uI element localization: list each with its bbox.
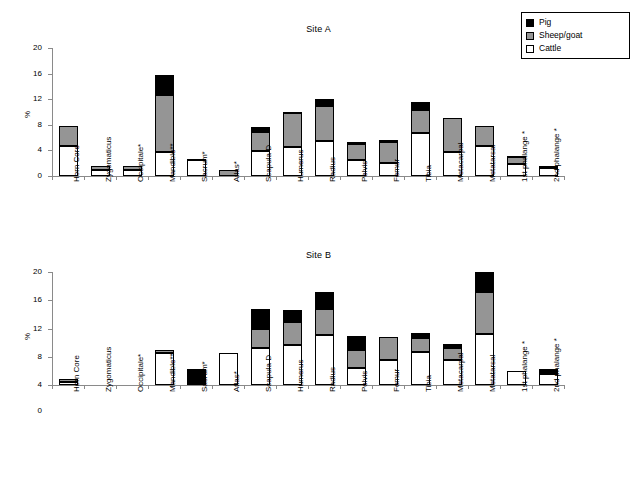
chart-panel-site-b: Site B 048121620 Horn CoreZygomaticusOcc…	[0, 240, 637, 479]
bar-pelvis	[347, 48, 366, 176]
bar-segment-sheep-goat	[251, 329, 270, 348]
x-axis-label: Scapula D	[264, 355, 273, 392]
bar-segment-pig	[475, 272, 494, 292]
bar-tibia	[411, 272, 430, 385]
x-axis-tick	[116, 385, 117, 389]
legend-swatch-cattle-icon	[526, 45, 534, 53]
x-axis-label: Sacrum*	[200, 361, 209, 392]
x-axis-tick	[468, 385, 469, 389]
x-axis-tick	[84, 385, 85, 389]
y-axis-tick-label: 20	[20, 268, 42, 276]
bar-segment-pig	[315, 292, 334, 309]
y-axis-tick	[48, 48, 52, 49]
x-axis-label: Femur	[392, 369, 401, 392]
bar-segment-sheep-goat	[475, 292, 494, 334]
y-axis-title-site-a: %	[24, 111, 32, 118]
legend-item-cattle: Cattle	[526, 42, 622, 55]
y-axis-tick-label: 0	[20, 172, 42, 180]
chart-title-site-b: Site B	[0, 250, 637, 260]
y-axis-tick-label: 8	[20, 353, 42, 361]
x-axis-label: Sacrum*	[200, 151, 209, 182]
x-axis-label: Radius	[328, 367, 337, 392]
x-axis-tick	[180, 176, 181, 180]
x-axis-label: Tibia	[424, 165, 433, 182]
bar-segment-pig	[443, 344, 462, 348]
y-axis-tick	[48, 125, 52, 126]
figure-root: Site A 048121620 Horn CoreZygomaticusOcc…	[0, 0, 637, 479]
bar-segment-sheep-goat	[283, 113, 302, 148]
bar-atlas	[219, 48, 238, 176]
y-axis-tick-label: 4	[20, 381, 42, 389]
bar-segment-pig	[283, 310, 302, 322]
x-axis-tick	[212, 385, 213, 389]
x-axis-tick	[212, 176, 213, 180]
x-axis-tick	[308, 385, 309, 389]
x-axis-tick	[436, 176, 437, 180]
x-axis-label: Zygomaticus	[104, 137, 113, 182]
legend-swatch-sheep-goat-icon	[526, 32, 534, 40]
legend-swatch-pig-icon	[526, 19, 534, 27]
x-axis-tick	[372, 176, 373, 180]
x-axis-tick	[52, 176, 53, 180]
x-axis-tick	[500, 385, 501, 389]
x-axis-tick	[244, 176, 245, 180]
y-axis-tick-label: 4	[20, 146, 42, 154]
x-axis-label: 2nd phalange *	[552, 128, 561, 182]
x-axis-tick	[148, 385, 149, 389]
y-axis-tick	[48, 74, 52, 75]
legend-label-sheep-goat: Sheep/goat	[539, 31, 582, 40]
x-axis-tick	[180, 385, 181, 389]
y-axis-tick	[48, 329, 52, 330]
x-axis-label: Metatarsal	[488, 355, 497, 392]
bar-segment-sheep-goat	[411, 110, 430, 133]
y-axis-tick-label: 16	[20, 296, 42, 304]
legend-label-pig: Pig	[539, 18, 551, 27]
x-axis-tick	[244, 385, 245, 389]
x-axis-label: Horn Core	[72, 355, 81, 392]
x-axis-tick	[308, 176, 309, 180]
x-axis-label: Scapula D	[264, 145, 273, 182]
bar-segment-pig	[411, 102, 430, 110]
x-axis-tick	[148, 176, 149, 180]
bar-segment-pig	[251, 127, 270, 133]
y-axis-tick	[48, 357, 52, 358]
bar-pelvis	[347, 272, 366, 385]
y-axis-tick	[48, 300, 52, 301]
y-axis-tick-label: 12	[20, 325, 42, 333]
x-axis-tick	[404, 385, 405, 389]
x-axis-label: Atlas*	[232, 161, 241, 182]
bar-segment-pig	[347, 142, 366, 144]
bar-segment-pig	[315, 99, 334, 106]
bar-segment-sheep-goat	[347, 144, 366, 160]
x-axis-tick	[84, 176, 85, 180]
x-axis-tick	[372, 385, 373, 389]
y-axis-tick-label: 0	[20, 407, 42, 415]
legend: Pig Sheep/goat Cattle	[521, 12, 630, 59]
x-axis-label: Humerus	[296, 360, 305, 392]
y-axis-title-site-b: %	[24, 333, 32, 340]
y-axis-tick-label: 12	[20, 95, 42, 103]
x-axis-tick	[404, 176, 405, 180]
y-axis-tick-label: 16	[20, 70, 42, 78]
y-axis-tick	[48, 272, 52, 273]
bar-tibia	[411, 48, 430, 176]
x-axis-label: Occipitale*	[136, 354, 145, 392]
bar-segment-sheep-goat	[283, 322, 302, 345]
legend-label-cattle: Cattle	[539, 44, 561, 53]
bar-segment-pig	[283, 112, 302, 114]
bar-segment-sheep-goat	[315, 309, 334, 334]
x-axis-label: Pelvis	[360, 371, 369, 392]
x-axis-tick	[564, 176, 565, 180]
x-axis-tick	[340, 385, 341, 389]
x-axis-tick	[564, 385, 565, 389]
x-axis-tick	[52, 385, 53, 389]
y-axis-tick-label: 20	[20, 44, 42, 52]
x-axis-label: Metatarsal	[488, 145, 497, 182]
x-axis-label: Mandible**	[168, 143, 177, 182]
x-axis-label: Horn Core	[72, 145, 81, 182]
bar-segment-pig	[251, 309, 270, 329]
x-axis-tick	[116, 176, 117, 180]
x-axis-label: Femur	[392, 159, 401, 182]
x-axis-label: Tibia	[424, 375, 433, 392]
bar-segment-sheep-goat	[155, 350, 174, 353]
